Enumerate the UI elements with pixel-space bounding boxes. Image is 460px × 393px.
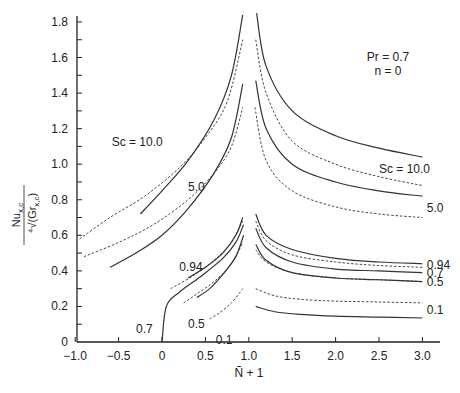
curve-label: 5.0 bbox=[188, 180, 205, 194]
line-chart: −1.0−0.500.51.01.52.02.53.000.20.40.60.8… bbox=[0, 0, 460, 393]
svg-text:Nux,c: Nux,c bbox=[10, 203, 25, 227]
x-tick-label: 0 bbox=[159, 349, 166, 363]
curve-label: 0.94 bbox=[179, 260, 203, 274]
curve-label: 0.1 bbox=[216, 333, 233, 347]
y-tick-label: 1.0 bbox=[51, 157, 68, 171]
x-tick-label: 3.0 bbox=[414, 349, 431, 363]
y-tick-label: 1.6 bbox=[51, 51, 68, 65]
y-tick-label: 0.6 bbox=[51, 228, 68, 242]
y-tick-label: 0.8 bbox=[51, 193, 68, 207]
curve-solid bbox=[256, 306, 423, 318]
x-tick-label: 2.5 bbox=[371, 349, 388, 363]
y-tick-label: 1.4 bbox=[51, 86, 68, 100]
curve-dashed bbox=[256, 250, 423, 282]
x-tick-label: −1.0 bbox=[63, 349, 87, 363]
curve-label: Sc = 10.0 bbox=[379, 162, 430, 176]
y-tick-label: 0 bbox=[61, 335, 68, 349]
y-tick-label: 1.2 bbox=[51, 122, 68, 136]
x-tick-label: 1.0 bbox=[240, 349, 257, 363]
x-tick-label: 0.5 bbox=[197, 349, 214, 363]
y-axis-label: Nux,c ⁴√(Grx,c) bbox=[10, 185, 41, 245]
curve-labels: Sc = 10.05.00.940.70.50.1Sc = 10.05.00.9… bbox=[112, 135, 451, 346]
annotation-pr: Pr = 0.7 bbox=[367, 50, 410, 64]
curve-label: 0.7 bbox=[136, 322, 153, 336]
annotation-n: n = 0 bbox=[374, 64, 401, 78]
curve-label: 5.0 bbox=[427, 201, 444, 215]
x-tick-label: 2.0 bbox=[327, 349, 344, 363]
curve-solid bbox=[257, 13, 423, 157]
x-axis-label: Ñ + 1 bbox=[234, 366, 263, 380]
curve-dashed bbox=[171, 221, 243, 289]
x-tick-label: 1.5 bbox=[284, 349, 301, 363]
y-tick-label: 0.4 bbox=[51, 264, 68, 278]
curve-solid bbox=[197, 235, 244, 297]
curve-dashed bbox=[210, 289, 243, 319]
curve-solid bbox=[256, 214, 423, 264]
curve-solid bbox=[256, 81, 423, 197]
curve-dashed bbox=[256, 289, 423, 303]
chart-container: −1.0−0.500.51.01.52.02.53.000.20.40.60.8… bbox=[0, 0, 460, 393]
y-tick-label: 0.2 bbox=[51, 299, 68, 313]
curve-dashed bbox=[256, 221, 423, 267]
svg-text:⁴√(Grx,c): ⁴√(Grx,c) bbox=[26, 193, 41, 234]
curve-label: Sc = 10.0 bbox=[112, 135, 163, 149]
y-tick-label: 1.8 bbox=[51, 15, 68, 29]
curve-label: 0.1 bbox=[427, 303, 444, 317]
curve-label: 0.5 bbox=[188, 317, 205, 331]
curve-label: 0.5 bbox=[427, 275, 444, 289]
x-tick-label: −0.5 bbox=[107, 349, 131, 363]
